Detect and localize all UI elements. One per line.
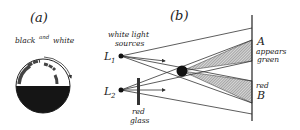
light-source-l2	[119, 88, 124, 93]
panel-a: (a) black and white	[15, 10, 75, 113]
panel-a-label: (a)	[30, 10, 48, 25]
glass-label-line2: glass	[130, 116, 150, 125]
shadow-region-b	[182, 71, 252, 103]
light-source-l1	[119, 54, 124, 59]
l2-subscript: 2	[110, 92, 116, 100]
opaque-object	[177, 66, 188, 77]
rotating-disk	[16, 57, 71, 113]
red-glass-filter	[137, 78, 140, 105]
green-label: green	[257, 55, 279, 64]
caption-white: white	[53, 36, 75, 45]
panel-b-label: (b)	[170, 8, 188, 23]
caption-and: and	[39, 34, 50, 40]
glass-label-line1: red	[132, 107, 145, 116]
sources-label-line2: sources	[115, 39, 144, 48]
diagram: (a) black and white (b)	[0, 0, 300, 130]
shadow-region-a	[182, 40, 252, 71]
caption-black: black	[15, 36, 36, 45]
point-b-label: B	[256, 89, 265, 102]
sources-label-line1: white light	[108, 30, 150, 39]
panel-b: (b) white light sources L 1 L 2 red glas…	[103, 8, 287, 125]
l1-subscript: 1	[111, 57, 115, 65]
